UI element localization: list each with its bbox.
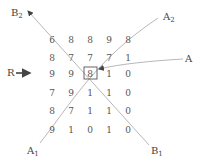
grid-cell: 9 — [46, 124, 58, 136]
label-b2: B2 — [11, 8, 23, 21]
grid-cell: 7 — [103, 52, 115, 64]
grid-cell: 1 — [122, 52, 134, 64]
grid-cell: 6 — [46, 34, 58, 46]
grid-cell: 8 — [46, 105, 58, 117]
grid-cell: 0 — [122, 105, 134, 117]
label-a: A — [185, 54, 192, 64]
grid-cell: 8 — [84, 68, 96, 80]
grid-cell: 1 — [103, 87, 115, 99]
grid-cell: 1 — [103, 124, 115, 136]
grid-cell: 1 — [84, 105, 96, 117]
grid-cell: 1 — [65, 124, 77, 136]
grid-cell: 1 — [103, 105, 115, 117]
label-a1: A1 — [27, 146, 39, 159]
grid-cell: 7 — [65, 105, 77, 117]
grid-cell: 0 — [122, 124, 134, 136]
grid-cell: 9 — [103, 34, 115, 46]
grid-cell: 0 — [122, 68, 134, 80]
grid-cell: 1 — [84, 87, 96, 99]
grid-cell: 1 — [103, 68, 115, 80]
grid-cell: 7 — [46, 87, 58, 99]
grid-cell: 9 — [65, 68, 77, 80]
grid-cell: 7 — [84, 52, 96, 64]
grid-cell: 8 — [84, 34, 96, 46]
grid-cell: 9 — [65, 87, 77, 99]
grid-cell: 0 — [84, 124, 96, 136]
grid-cell: 8 — [65, 34, 77, 46]
grid-cell: 9 — [46, 68, 58, 80]
grid-cell: 8 — [46, 52, 58, 64]
label-a2: A2 — [163, 12, 175, 25]
grid-cell: 7 — [65, 52, 77, 64]
grid-cell: 0 — [122, 87, 134, 99]
label-r: R — [7, 68, 15, 78]
label-b1: B1 — [151, 146, 163, 159]
grid-cell: 8 — [122, 34, 134, 46]
